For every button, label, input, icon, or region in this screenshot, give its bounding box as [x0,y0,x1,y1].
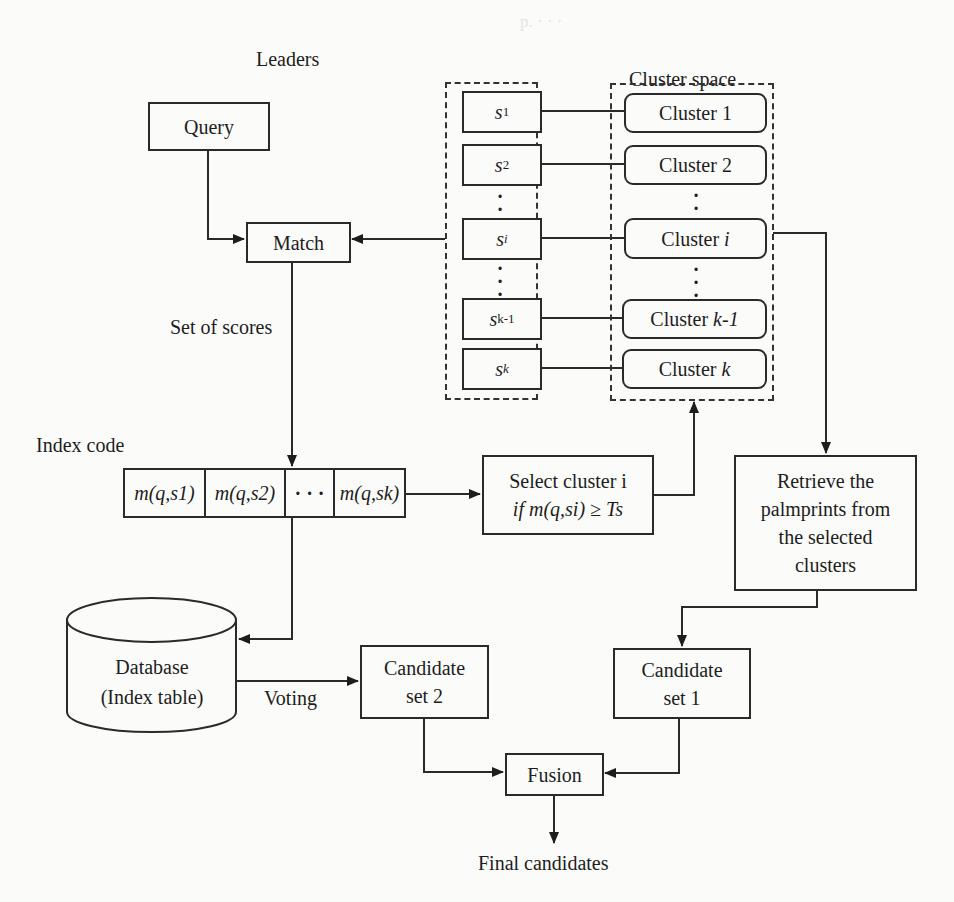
cluster-label: Cluster [659,151,722,179]
cluster-label: Cluster [661,225,724,253]
cluster-k-1: Cluster k-1 [622,299,767,339]
ellipsis-vertical-icon: ··· [690,263,702,302]
leader-base: s [495,151,503,179]
cluster-i: Cluster i [624,218,767,259]
index-cell: m(q,sk) [335,470,404,516]
set-of-scores-label: Set of scores [170,316,272,339]
leader-s1: s1 [462,91,542,133]
cluster-index: 2 [722,151,732,179]
final-candidates-label: Final candidates [478,852,609,875]
cluster-k: Cluster k [622,349,767,389]
fusion-box: Fusion [505,753,604,796]
leader-sub: 2 [503,151,510,179]
index-code-label: Index code [36,434,124,457]
database: Database (Index table) [67,652,237,712]
voting-label: Voting [264,687,317,710]
candidate-label: Candidate [384,654,465,682]
leader-s2: s2 [462,144,542,186]
cluster-1: Cluster 1 [624,93,767,133]
match-box: Match [246,222,351,263]
leader-sk-1: sk-1 [462,298,542,340]
leader-sub: i [504,225,508,253]
candidate-set-1-box: Candidate set 1 [613,648,751,719]
leader-sub: k-1 [497,305,514,333]
candidate-set-2-box: Candidate set 2 [360,645,489,719]
cluster-index: k-1 [713,305,739,333]
leader-base: s [496,225,504,253]
index-code-row: m(q,s1) m(q,s2) · · · m(q,sk) [123,468,406,518]
leaders-title: Leaders [256,48,319,71]
cluster-index: k [721,355,730,383]
cluster-2: Cluster 2 [624,145,767,185]
cluster-label: Cluster [650,305,713,333]
cluster-label: Cluster [659,355,722,383]
leader-base: s [495,98,503,126]
ellipsis-vertical-icon: ··· [494,262,506,301]
candidate-set-number: set 2 [406,682,443,710]
retrieve-line: palmprints from [761,495,890,523]
index-cell: m(q,s1) [125,470,206,516]
retrieve-line: clusters [795,551,856,579]
leader-sub: k [503,355,509,383]
leader-sub: 1 [503,98,510,126]
select-cluster-box: Select cluster i if m(q,si) ≥ Ts [482,455,654,535]
candidate-set-number: set 1 [663,684,700,712]
select-line-2: if m(q,si) ≥ Ts [513,495,623,523]
database-label: Database [67,652,237,682]
leader-si: si [462,218,542,260]
query-box: Query [148,102,270,151]
database-sublabel: (Index table) [67,682,237,712]
leader-base: s [489,305,497,333]
cluster-label: Cluster [659,99,722,127]
index-cell: m(q,s2) [206,470,286,516]
candidate-label: Candidate [641,656,722,684]
cluster-index: 1 [722,99,732,127]
retrieve-line: Retrieve the [777,467,874,495]
select-line-1: Select cluster i [509,467,627,495]
index-cell-ellipsis: · · · [286,470,335,516]
retrieve-line: the selected [779,523,873,551]
leader-sk: sk [462,348,542,390]
leader-base: s [495,355,503,383]
cluster-index: i [724,225,730,253]
retrieve-box: Retrieve the palmprints from the selecte… [734,455,917,591]
